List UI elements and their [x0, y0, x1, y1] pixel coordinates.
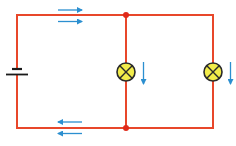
lamp-2-icon	[204, 63, 222, 81]
junction-bottom-dot	[123, 125, 129, 131]
lamp-1-icon	[117, 63, 135, 81]
junction-top-dot	[123, 12, 129, 18]
circuit-diagram	[0, 0, 236, 146]
